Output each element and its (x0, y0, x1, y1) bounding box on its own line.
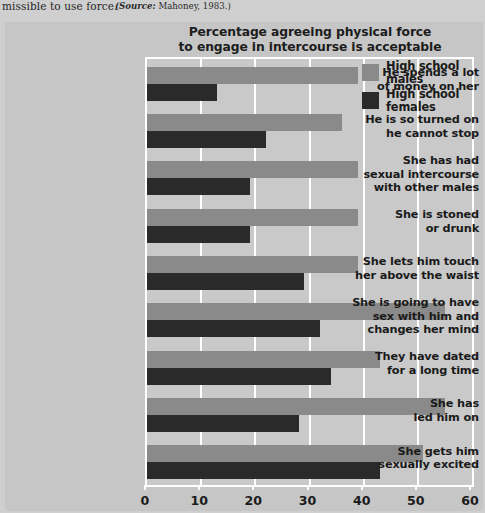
bar-females (147, 462, 380, 479)
category-label-line: led him on (347, 411, 479, 425)
bar-females (147, 415, 299, 432)
bar-females (147, 273, 304, 290)
category-label-line: She has had (347, 154, 479, 168)
category-label-line: sex with him and (347, 310, 479, 324)
x-axis-tick-mark (252, 485, 254, 490)
x-axis-tick-mark (469, 485, 471, 490)
category-label: He spends a lotof money on her (347, 66, 483, 93)
category-label-line: She is going to have (347, 296, 479, 310)
category-label-line: She gets him (347, 445, 479, 459)
category-label-line: She lets him touch (347, 255, 479, 269)
bar-females (147, 178, 250, 195)
x-axis-tick-label: 50 (396, 493, 436, 508)
x-axis-tick-mark (198, 485, 200, 490)
bar-males (147, 67, 358, 84)
x-axis-tick-label: 30 (288, 493, 328, 508)
category-label-line: He spends a lot (347, 66, 479, 80)
category-label: She is going to havesex with him andchan… (347, 296, 483, 337)
bar-males (147, 256, 358, 273)
caption-source: (Source: Mahoney, 1983.) (115, 1, 231, 11)
bar-males (147, 351, 380, 368)
x-axis-tick-label: 40 (342, 493, 382, 508)
category-label-line: She has (347, 397, 479, 411)
category-label: They have datedfor a long time (347, 350, 483, 377)
caption-source-value: Mahoney, 1983.) (156, 1, 231, 11)
x-axis-tick-label: 0 (125, 493, 165, 508)
category-label-line: of money on her (347, 80, 479, 94)
category-label-line: changes her mind (347, 323, 479, 337)
category-label-line: or drunk (347, 222, 479, 236)
bar-females (147, 131, 266, 148)
category-label-line: he cannot stop (347, 127, 479, 141)
bar-females (147, 84, 217, 101)
category-label: She hasled him on (347, 397, 483, 424)
caption-source-label: (Source: (115, 1, 156, 11)
chart-title-line-1: Percentage agreeing physical force (145, 25, 475, 40)
bar-males (147, 161, 358, 178)
category-label-line: sexual intercourse (347, 168, 479, 182)
x-axis-tick-mark (144, 485, 146, 490)
category-label-line: for a long time (347, 364, 479, 378)
x-axis-tick-label: 60 (450, 493, 485, 508)
category-label-line: They have dated (347, 350, 479, 364)
x-axis-tick-label: 20 (233, 493, 273, 508)
legend-swatch-females (362, 92, 379, 109)
category-label: She gets himsexually excited (347, 445, 483, 472)
bar-females (147, 368, 331, 385)
caption-strip: missible to use force. (Source: Mahoney,… (0, 0, 485, 22)
category-label: He is so turned onhe cannot stop (347, 113, 483, 140)
chart-title-line-2: to engage in intercourse is acceptable (145, 40, 475, 55)
category-label-line: He is so turned on (347, 113, 479, 127)
chart-title: Percentage agreeing physical force to en… (145, 25, 475, 54)
bar-females (147, 320, 320, 337)
category-label: She has hadsexual intercoursewith other … (347, 154, 483, 195)
x-axis-tick-mark (361, 485, 363, 490)
category-label-line: sexually excited (347, 458, 479, 472)
x-axis-tick-mark (415, 485, 417, 490)
caption-body-text: missible to use force. (2, 0, 118, 12)
category-label: She is stonedor drunk (347, 208, 483, 235)
x-axis-tick-mark (307, 485, 309, 490)
figure-panel: Percentage agreeing physical force to en… (5, 22, 483, 511)
x-axis-tick-label: 10 (179, 493, 219, 508)
category-label: She lets him touchher above the waist (347, 255, 483, 282)
category-label-line: her above the waist (347, 269, 479, 283)
category-label-line: She is stoned (347, 208, 479, 222)
bar-females (147, 226, 250, 243)
bar-males (147, 114, 342, 131)
bar-males (147, 209, 358, 226)
category-label-line: with other males (347, 181, 479, 195)
